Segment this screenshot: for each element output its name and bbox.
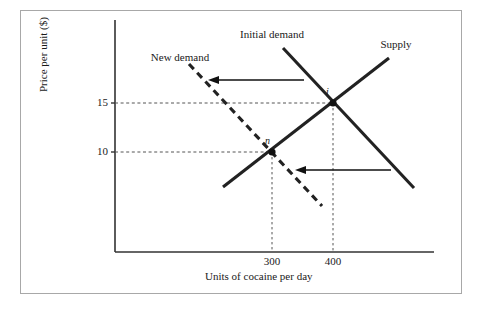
new-demand-label: New demand [130,51,230,63]
initial-demand-curve [283,48,414,188]
lower-shift-arrow [295,166,391,174]
x-axis-title: Units of cocaine per day [205,270,313,282]
point-label-n: n [265,135,270,146]
y-tick-label-15: 15 [88,96,108,108]
y-tick-label-10: 10 [88,145,108,157]
x-tick-label-300: 300 [252,255,292,267]
equilibrium-point-n [268,148,275,155]
upper-shift-arrow [208,76,304,84]
supply-label: Supply [366,38,426,50]
point-label-i: i [326,86,329,97]
x-tick-label-400: 400 [313,255,353,267]
figure-root: Price per unit ($) Units of cocaine per … [0,0,482,310]
y-axis-title: Price per unit ($) [37,17,49,92]
initial-demand-label: Initial demand [222,28,322,40]
equilibrium-point-i [329,99,336,106]
new-demand-curve [189,64,322,206]
